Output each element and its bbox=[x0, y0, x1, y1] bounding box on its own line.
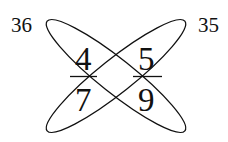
diagram-svg: 36 35 4 5 7 9 bbox=[0, 0, 228, 142]
number-bottom-right: 9 bbox=[138, 82, 155, 118]
corner-label-top-left: 36 bbox=[11, 13, 32, 37]
number-top-right: 5 bbox=[138, 41, 155, 77]
ellipse-bottomleft-topright bbox=[37, 8, 196, 142]
ellipse-topleft-bottomright bbox=[37, 8, 196, 142]
number-bottom-left: 7 bbox=[75, 82, 92, 118]
corner-label-top-right: 35 bbox=[198, 13, 219, 37]
number-top-left: 4 bbox=[75, 41, 92, 77]
diagram-canvas: 36 35 4 5 7 9 bbox=[0, 0, 228, 142]
